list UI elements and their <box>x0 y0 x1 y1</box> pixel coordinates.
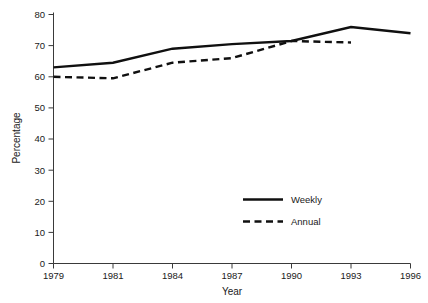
y-tick-label: 0 <box>40 258 45 269</box>
figure-container: 0 10 20 30 40 50 60 70 80 1979 1981 1984… <box>0 0 428 303</box>
legend-label-annual: Annual <box>291 216 321 227</box>
y-tick-label: 80 <box>34 9 45 20</box>
x-axis-tick-labels: 1979 1981 1984 1987 1990 1993 1996 <box>43 270 421 281</box>
x-tick-label: 1981 <box>102 270 123 281</box>
y-axis-title: Percentage <box>11 112 22 164</box>
figure-caption-strip <box>0 294 428 303</box>
series-line-weekly <box>54 27 411 67</box>
y-axis-ticks <box>49 15 54 264</box>
x-tick-label: 1990 <box>281 270 302 281</box>
legend-label-weekly: Weekly <box>291 194 322 205</box>
y-tick-label: 10 <box>34 227 45 238</box>
line-chart: 0 10 20 30 40 50 60 70 80 1979 1981 1984… <box>0 0 428 303</box>
x-tick-label: 1984 <box>162 270 183 281</box>
y-tick-label: 50 <box>34 102 45 113</box>
x-tick-label: 1987 <box>221 270 242 281</box>
y-tick-label: 40 <box>34 133 45 144</box>
x-tick-label: 1979 <box>43 270 64 281</box>
x-tick-label: 1993 <box>340 270 361 281</box>
chart-legend: Weekly Annual <box>243 194 322 227</box>
y-tick-label: 60 <box>34 71 45 82</box>
y-axis-tick-labels: 0 10 20 30 40 50 60 70 80 <box>34 9 45 269</box>
axis-lines <box>54 13 411 264</box>
y-tick-label: 30 <box>34 165 45 176</box>
y-tick-label: 20 <box>34 196 45 207</box>
y-tick-label: 70 <box>34 40 45 51</box>
x-tick-label: 1996 <box>400 270 421 281</box>
x-axis-ticks <box>54 264 411 269</box>
plot-axes <box>54 13 411 264</box>
